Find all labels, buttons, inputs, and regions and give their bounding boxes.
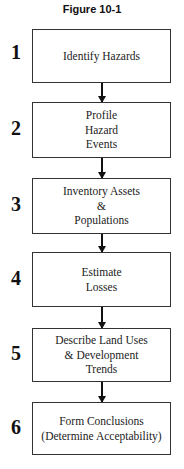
step-number-6: 6 [6, 416, 26, 439]
step-box-2: Profile Hazard Events [32, 102, 171, 158]
step-label-4: Estimate Losses [81, 265, 121, 294]
step-label-2: Profile Hazard Events [85, 108, 118, 152]
step-box-4: Estimate Losses [32, 252, 171, 307]
step-label-1: Identify Hazards [63, 49, 140, 64]
step-box-5: Describe Land Uses & Development Trends [32, 328, 171, 382]
arrow-3-to-4 [101, 234, 103, 252]
step-label-3: Inventory Assets & Populations [63, 184, 140, 228]
step-number-4: 4 [6, 267, 26, 290]
arrow-4-to-5 [101, 307, 103, 328]
step-label-6: Form Conclusions (Determine Acceptabilit… [41, 414, 161, 443]
arrow-5-to-6 [101, 382, 103, 402]
step-number-2: 2 [6, 117, 26, 140]
arrow-1-to-2 [101, 83, 103, 102]
step-box-3: Inventory Assets & Populations [32, 178, 171, 234]
step-box-6: Form Conclusions (Determine Acceptabilit… [32, 402, 171, 455]
figure-title: Figure 10-1 [0, 3, 184, 15]
step-box-1: Identify Hazards [32, 29, 171, 83]
step-number-5: 5 [6, 342, 26, 365]
step-label-5: Describe Land Uses & Development Trends [55, 333, 148, 377]
arrow-2-to-3 [101, 158, 103, 178]
step-number-3: 3 [6, 193, 26, 216]
step-number-1: 1 [6, 41, 26, 64]
